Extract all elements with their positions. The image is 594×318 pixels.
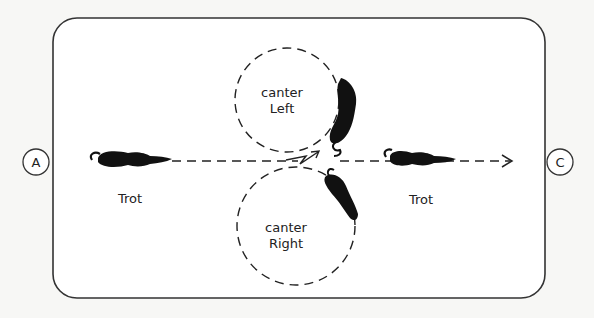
arena-diagram: A C Trot Trot canter Left canter Right — [0, 0, 594, 318]
trot-left-label: Trot — [117, 191, 142, 206]
marker-a-label: A — [32, 155, 41, 170]
marker-c: C — [547, 149, 573, 175]
canter-right-label-line2: Right — [269, 236, 303, 251]
marker-a: A — [23, 149, 49, 175]
trot-right-label: Trot — [408, 192, 433, 207]
marker-c-label: C — [555, 155, 564, 170]
canter-left-label-line2: Left — [270, 101, 294, 116]
canter-left-label-line1: canter — [261, 85, 303, 100]
canter-right-label-line1: canter — [265, 220, 307, 235]
